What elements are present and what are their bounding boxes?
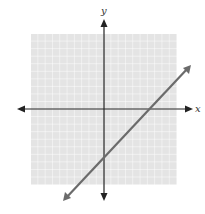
y-axis-down-arrow-icon [101, 193, 108, 201]
x-axis-label: x [195, 103, 201, 114]
y-axis-label: y [100, 5, 107, 16]
y-axis-up-arrow-icon [101, 19, 108, 27]
coordinate-plane: y x [0, 0, 205, 214]
x-axis-left-arrow-icon [17, 106, 25, 113]
x-axis-right-arrow-icon [185, 106, 193, 113]
